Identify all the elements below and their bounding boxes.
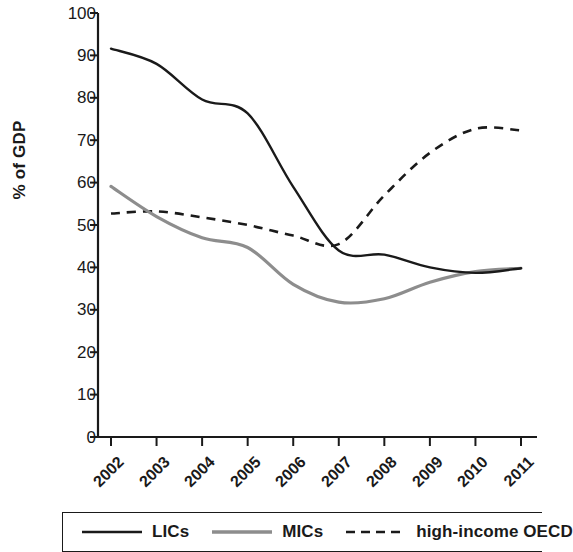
legend-item-mics: MICs bbox=[211, 522, 323, 542]
plot-area bbox=[0, 0, 544, 460]
legend-item-high-income-oecd: high-income OECD bbox=[345, 522, 573, 542]
legend-item-lics: LICs bbox=[81, 522, 189, 542]
legend-label-high-income-oecd: high-income OECD bbox=[416, 522, 573, 542]
dashed-black-line-icon bbox=[345, 526, 407, 538]
solid-gray-line-icon bbox=[211, 526, 273, 538]
legend-label-mics: MICs bbox=[282, 522, 323, 542]
x-axis-ticks bbox=[111, 437, 521, 446]
y-axis-ticks bbox=[90, 13, 98, 437]
chart-legend: LICs MICs high-income OECD bbox=[62, 512, 542, 552]
legend-label-lics: LICs bbox=[152, 522, 189, 542]
series-line-high-income-oecd bbox=[111, 127, 521, 246]
series-line-lics bbox=[111, 49, 521, 273]
solid-black-line-icon bbox=[81, 526, 143, 538]
